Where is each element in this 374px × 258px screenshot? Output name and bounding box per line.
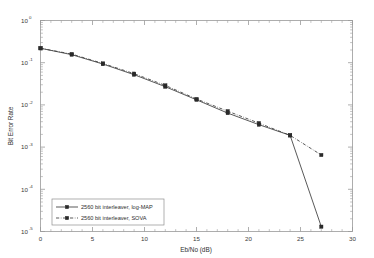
data-point-marker [257, 121, 260, 124]
data-point-marker [70, 52, 73, 55]
svg-text:10: 10 [21, 228, 28, 235]
svg-text:10: 10 [21, 186, 28, 193]
svg-text:10: 10 [21, 143, 28, 150]
svg-text:-5: -5 [29, 226, 33, 231]
svg-text:10: 10 [21, 17, 28, 24]
x-tick-label: 15 [193, 235, 200, 242]
x-tick-label: 10 [141, 235, 148, 242]
data-point-marker [195, 97, 198, 100]
legend-label: 2560 bit interleaver, log-MAP [81, 204, 153, 210]
data-point-marker [164, 84, 167, 87]
y-axis-label: Bit Error Rate [7, 106, 14, 145]
svg-text:10: 10 [21, 59, 28, 66]
data-point-marker [39, 47, 42, 50]
svg-text:-4: -4 [29, 184, 33, 189]
svg-text:-3: -3 [29, 142, 33, 147]
svg-text:-2: -2 [29, 100, 33, 105]
chart-legend[interactable]: 2560 bit interleaver, log-MAP2560 bit in… [52, 199, 164, 225]
x-tick-label: 5 [91, 235, 95, 242]
svg-text:10: 10 [21, 101, 28, 108]
legend-marker-sample [65, 216, 68, 219]
x-tick-label: 25 [297, 235, 304, 242]
x-tick-label: 0 [39, 235, 43, 242]
data-point-marker [288, 134, 291, 137]
figure-canvas: 10010-110-210-310-410-5 051015202530 Eb/… [0, 0, 374, 258]
legend-label: 2560 bit interleaver, SOVA [81, 215, 147, 221]
x-axis-label: Eb/No (dB) [180, 246, 212, 254]
svg-text:-1: -1 [29, 57, 33, 62]
legend-box [52, 199, 164, 225]
data-point-marker [101, 62, 104, 65]
x-tick-label: 20 [245, 235, 252, 242]
data-point-marker [320, 225, 323, 228]
legend-marker-sample [65, 205, 68, 208]
bit-error-rate-chart: 10010-110-210-310-410-5 051015202530 Eb/… [0, 0, 374, 258]
data-point-marker [132, 72, 135, 75]
x-tick-label: 30 [349, 235, 356, 242]
data-point-marker [320, 153, 323, 156]
data-point-marker [226, 109, 229, 112]
